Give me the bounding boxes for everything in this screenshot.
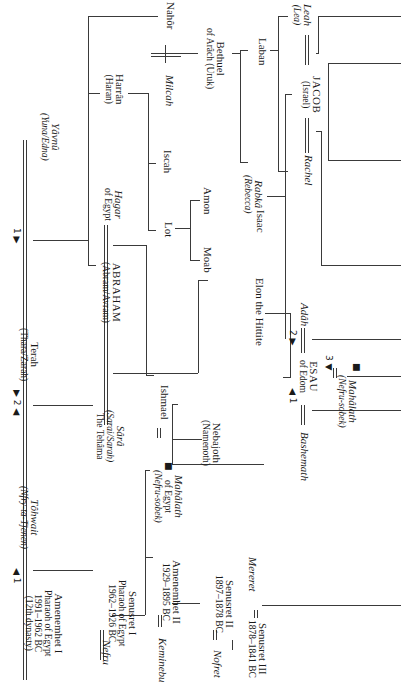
person-senusret2: Senusret II1897–1878 BC xyxy=(213,575,235,633)
esau-isaac-link xyxy=(283,377,291,378)
laban-link xyxy=(240,50,248,51)
abraham-isaac-link xyxy=(113,373,198,374)
ishmael-spine xyxy=(146,245,147,375)
person-jacob: JACOB(Israel) xyxy=(300,76,322,113)
square-marker-esau: ■ xyxy=(352,363,362,372)
bethuel-children-link xyxy=(232,53,240,54)
laban-children-link xyxy=(270,50,278,51)
person-mahalath-esau: Mahâlath(Nefru-sobek) xyxy=(336,375,358,428)
senusret2-child xyxy=(232,640,233,650)
person-laban: Laban xyxy=(256,38,268,65)
abraham-ishmael-link xyxy=(113,245,146,246)
mahalath-egypt-link xyxy=(145,470,150,471)
esau-bashemath-marriage xyxy=(301,405,305,425)
person-nahor: Nahôr xyxy=(164,2,176,30)
person-amenemhet2: Amenemhet II1929–1895 BC xyxy=(160,560,182,624)
milcah-line xyxy=(165,45,166,63)
square-marker-ishmael: ■ xyxy=(164,462,174,471)
person-adah: Adâh xyxy=(298,303,310,326)
rachel-children-spine xyxy=(321,131,322,265)
person-hagar: Hagarof Egypt xyxy=(102,188,124,221)
senusret1-children-spine xyxy=(145,470,146,615)
isaac-rabka-children xyxy=(267,196,285,197)
marker-terah-1: 1 ▶ xyxy=(12,228,22,244)
jacob-leah-marriage xyxy=(305,35,309,65)
person-lot: Lot xyxy=(162,222,174,237)
person-bashemath: Bashemath xyxy=(298,432,310,481)
person-rabka: Rabkâ(Rebecca) xyxy=(242,175,264,214)
person-sara: Sârâ(Sarai/Sarah)The Tehâma xyxy=(95,410,126,462)
amon-link xyxy=(190,200,200,201)
person-senusret1: Senusret IPharaoh of Egypt1962–1926 BC xyxy=(107,580,138,647)
genealogy-diagram: Nahôr Harrân(Haran) Milcah Bethuelof Arâ… xyxy=(0,0,401,694)
moab-link xyxy=(190,260,200,261)
person-nebajoth: Nebajoth(Namenoth) xyxy=(200,420,222,466)
person-bethuel: Bethuelof Arâch (Uruk) xyxy=(204,28,226,89)
lot-link xyxy=(148,230,156,231)
harran-link xyxy=(88,93,100,94)
marker-terah-2: ▶ 2 ◀ xyxy=(12,390,22,415)
lot-children-spine xyxy=(190,200,191,260)
abraham-marriage-line xyxy=(104,225,108,425)
iscah-link xyxy=(148,163,156,164)
bethuel-children-spine xyxy=(240,50,241,162)
rachel-link xyxy=(278,171,288,172)
adah-children xyxy=(312,339,401,340)
person-iscah: Iscah xyxy=(161,150,173,173)
rachel-children-bottom xyxy=(321,265,401,266)
nebajoth-spine xyxy=(172,404,173,464)
person-terah: Terah(Thara/Zarah) xyxy=(18,328,40,381)
harran-children-link xyxy=(128,93,148,94)
person-tohwait: Tôhwait(Nfry-ta-Tjenen) xyxy=(18,486,40,549)
lot-children-link xyxy=(175,228,190,229)
senusret3-children xyxy=(262,605,401,606)
ishmael-mahalath-marriage xyxy=(157,428,161,438)
marker-esau-1: ◀ 1 xyxy=(288,388,298,404)
jacob-children-top xyxy=(328,63,401,64)
person-isaac: Isaac xyxy=(254,210,266,233)
senusret3-mereret-marriage xyxy=(254,610,258,618)
isaac-spine xyxy=(198,280,199,373)
nahor-milcah-children xyxy=(176,53,198,54)
amenemhet1-children xyxy=(33,570,93,571)
person-nofret: Nofret xyxy=(211,650,223,678)
person-yavnu: Yâvnû(Yuna/Edna) xyxy=(39,113,61,161)
person-harran: Harrân(Haran) xyxy=(103,74,125,105)
leah-children xyxy=(318,16,401,17)
jacob-link xyxy=(285,94,292,95)
person-leah: Leah(Lea) xyxy=(291,4,313,26)
laban-children-spine xyxy=(278,16,279,171)
person-mahalath-ishmael: Mahâlathof Egypt(Nefru-sobek) xyxy=(153,470,184,523)
ishmael-link xyxy=(146,375,154,376)
leah-children-drop xyxy=(318,16,319,53)
person-abraham: ABRAHAM(Abram/Avram) xyxy=(100,262,122,323)
esau-adah-marriage xyxy=(301,328,305,353)
person-keminebu: Keminebu xyxy=(156,638,168,683)
person-amon: Amon xyxy=(201,187,213,215)
leah-link xyxy=(278,16,288,17)
sara-terah-link xyxy=(33,405,93,406)
person-ishmael: Ishmael xyxy=(158,385,170,420)
jacob-children-spine xyxy=(328,63,329,160)
person-moab: Moab xyxy=(201,247,213,273)
person-rachel: Rachel xyxy=(302,155,314,186)
nebajoth-link xyxy=(172,404,178,405)
person-milcah: Milcah xyxy=(163,75,175,106)
person-senusret3: Senusret III1878–1841 BC xyxy=(246,620,268,678)
isaac-children-spine xyxy=(285,94,286,339)
person-amenemhet1: Amenemhet IPharaoh of Egypt1991–1962 BC(… xyxy=(23,590,64,657)
terah-yavnu-link xyxy=(33,240,88,241)
marker-esau-2: 2 ▶ xyxy=(288,330,298,346)
abraham-link xyxy=(88,265,96,266)
marker-amenemhet-1: ◀ 1 xyxy=(12,568,22,584)
terah-children-spine xyxy=(88,16,89,266)
person-esau: ESAUof Edom xyxy=(297,360,319,393)
harran-children-spine xyxy=(148,93,149,230)
rabka-link xyxy=(240,162,248,163)
nahor-link xyxy=(88,16,158,17)
ishmael-children xyxy=(172,439,202,440)
person-mereret: Mereret xyxy=(246,557,258,592)
isaac-link xyxy=(198,280,208,281)
jacob-rachel-marriage xyxy=(305,118,309,153)
person-elon: Elon the Hittite xyxy=(253,278,265,346)
